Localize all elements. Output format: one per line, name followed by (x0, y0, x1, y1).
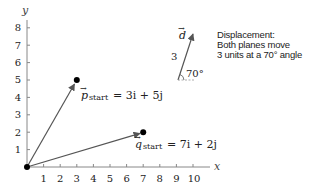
svg-text:→: → (80, 84, 87, 93)
svg-text:3: 3 (15, 109, 21, 120)
y-axis-label: y (21, 4, 29, 17)
point-q (140, 129, 146, 135)
svg-text:= 7i + 2j: = 7i + 2j (167, 138, 217, 151)
svg-text:start: start (143, 142, 163, 151)
displacement-note: Displacement: Both planes move 3 units a… (217, 30, 302, 60)
svg-text:= 3i + 5j: = 3i + 5j (113, 89, 163, 102)
svg-text:8: 8 (15, 22, 21, 33)
svg-text:start: start (89, 93, 109, 102)
svg-text:4: 4 (90, 173, 96, 184)
svg-text:2: 2 (15, 127, 21, 138)
svg-text:7: 7 (15, 40, 21, 51)
y-tick-labels: 1 2 3 4 5 6 7 8 (15, 22, 21, 155)
svg-text:6: 6 (15, 57, 21, 68)
svg-text:2: 2 (57, 173, 63, 184)
svg-text:3: 3 (74, 173, 80, 184)
angle-label: 70° (186, 68, 204, 79)
svg-text:8: 8 (157, 173, 163, 184)
arrow-over-d: → (178, 24, 185, 33)
svg-text:5: 5 (15, 74, 21, 85)
svg-text:1: 1 (40, 173, 46, 184)
svg-text:9: 9 (173, 173, 179, 184)
svg-text:1: 1 (15, 144, 21, 155)
point-p (74, 77, 80, 83)
svg-text:10: 10 (188, 173, 201, 184)
note-line-3: 3 units at a 70° angle (217, 50, 302, 60)
svg-text:→: → (134, 133, 141, 142)
magnitude-label: 3 (171, 51, 177, 62)
svg-text:6: 6 (123, 173, 129, 184)
label-p: p → start = 3i + 5j (80, 84, 163, 102)
x-tick-labels: 1 2 3 4 5 6 7 8 9 10 (40, 173, 200, 184)
angle-arc (180, 75, 184, 81)
label-q: q → start = 7i + 2j (134, 133, 217, 151)
x-axis-label: x (214, 160, 221, 173)
svg-text:5: 5 (107, 173, 113, 184)
origin-point (24, 164, 30, 170)
svg-text:7: 7 (140, 173, 146, 184)
svg-text:4: 4 (15, 92, 21, 103)
